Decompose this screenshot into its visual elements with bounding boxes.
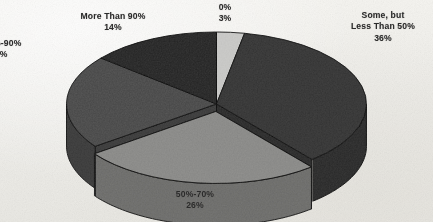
slice-value-text: 36% <box>337 33 429 44</box>
slice-label-text: 0% <box>219 2 232 12</box>
slice-label-text: More Than 90% <box>81 11 146 21</box>
slice-label-text: 50%-70% <box>176 189 214 199</box>
slice-value-text: 26% <box>143 200 247 211</box>
slice-label-50-to-70: 50%-70% 26% <box>143 189 247 212</box>
slice-label-70-to-90: )%-90% 21% <box>0 38 54 61</box>
slice-label-text-line1: Some, but <box>362 10 405 20</box>
slice-value-text: 14% <box>58 22 168 33</box>
slice-label-some-but-less-than-50: Some, but Less Than 50% 36% <box>337 10 429 44</box>
slice-label-text: )%-90% <box>0 38 21 48</box>
slice-label-text-line2: Less Than 50% <box>337 21 429 32</box>
slice-label-0-percent: 0% 3% <box>197 2 253 25</box>
pie-chart-figure: 0% 3% Some, but Less Than 50% 36% More T… <box>0 0 433 222</box>
slice-label-more-than-90: More Than 90% 14% <box>58 11 168 34</box>
slice-value-text: 21% <box>0 49 54 60</box>
slice-value-text: 3% <box>197 13 253 24</box>
